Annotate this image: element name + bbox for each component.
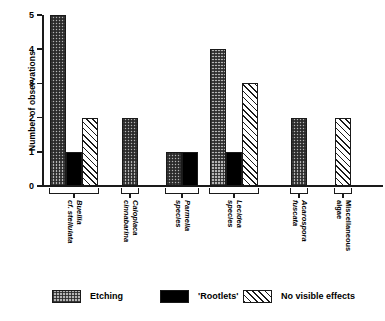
bar-etching — [166, 152, 182, 186]
bar-etching — [291, 118, 307, 186]
category-label-line1: Buellia — [75, 200, 84, 225]
x-axis-category-label: Buelliacf. stellulata — [65, 200, 82, 243]
y-axis-tick-label: 5 — [0, 11, 34, 20]
x-group-bracket-stem — [298, 194, 299, 198]
legend-label-etching: Etching — [90, 291, 123, 301]
bar-etching — [122, 118, 138, 186]
y-axis-tick-label: 2 — [0, 113, 34, 122]
legend-swatch-rootlets — [160, 290, 189, 303]
y-axis-title: Number of observations — [27, 16, 37, 186]
bar-no-visible-effects — [242, 83, 258, 186]
category-label-line2: algae — [334, 200, 343, 251]
category-label-line2: cf. stellulata — [65, 200, 74, 243]
y-axis-tick-label: 0 — [0, 182, 34, 191]
category-label-line1: Acarospora — [300, 200, 309, 242]
bar-rootlets — [226, 152, 242, 186]
legend-label-rootlets: 'Rootlets' — [198, 291, 238, 301]
category-label-line1: Miscellaneous — [344, 200, 353, 251]
legend-item-rootlets[interactable]: 'Rootlets' — [160, 287, 238, 305]
bar-chart: Number of observations 012345 Buelliacf.… — [0, 0, 385, 321]
bar-no-visible-effects — [335, 118, 351, 186]
category-label-line1: Caloplaca — [131, 200, 140, 235]
x-axis-category-label: Miscellaneousalgae — [334, 200, 351, 251]
bar-rootlets — [66, 152, 82, 186]
legend-item-no-visible-effects[interactable]: No visible effects — [243, 287, 355, 305]
x-axis-category-label: Acarosporafuscata — [290, 200, 307, 242]
bar-no-visible-effects — [82, 118, 98, 186]
bar-rootlets — [182, 152, 198, 186]
plot-area — [42, 15, 383, 186]
x-group-bracket-stem — [73, 194, 74, 198]
legend-item-etching[interactable]: Etching — [52, 287, 123, 305]
bar-etching — [210, 49, 226, 186]
category-label-line1: Lecidea — [235, 200, 244, 228]
x-group-bracket-stem — [233, 194, 234, 198]
x-axis-category-label: Caloplacacinnabarina — [121, 200, 138, 242]
category-label-line1: Parmelia — [183, 200, 192, 231]
y-axis-tick-label: 4 — [0, 45, 34, 54]
y-axis-tick-label: 1 — [0, 147, 34, 156]
bar-etching — [50, 15, 66, 186]
x-axis-category-label: Parmeliaspecies — [173, 200, 190, 231]
x-group-bracket-stem — [129, 194, 130, 198]
legend-swatch-etching — [52, 290, 81, 303]
x-group-bracket-stem — [181, 194, 182, 198]
y-axis-tick-label: 3 — [0, 79, 34, 88]
chart-legend: Etching'Rootlets'No visible effects — [0, 287, 385, 309]
category-label-line2: species — [173, 200, 182, 231]
x-group-bracket-stem — [342, 194, 343, 198]
category-label-line2: fuscata — [290, 200, 299, 242]
category-label-line2: cinnabarina — [121, 200, 130, 242]
legend-swatch-no-visible-effects — [243, 290, 272, 303]
legend-label-no-visible-effects: No visible effects — [281, 291, 355, 301]
x-axis-category-label: Lecideaspecies — [225, 200, 242, 228]
category-label-line2: species — [225, 200, 234, 228]
